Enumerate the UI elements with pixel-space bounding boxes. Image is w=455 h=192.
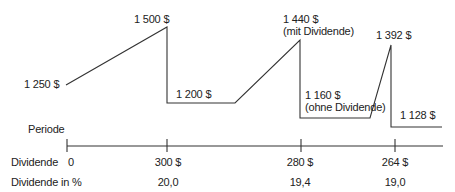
price-label-low3: 1 128 $	[400, 109, 435, 122]
price-label-low1: 1 200 $	[176, 88, 211, 101]
axis-label-period: Periode	[28, 123, 65, 136]
price-label-low2-note: (ohne Dividende)	[305, 101, 386, 114]
tick-dividend-3: 264 $	[382, 156, 409, 169]
tick-percent-2: 19,4	[290, 176, 311, 189]
tick-dividend-2: 280 $	[287, 156, 314, 169]
price-label-peak2-note: (mit Dividende)	[283, 25, 354, 38]
tick-percent-3: 19,0	[385, 176, 406, 189]
tick-dividend-0: 0	[68, 156, 74, 169]
tick-dividend-1: 300 $	[155, 156, 182, 169]
tick-percent-1: 20,0	[158, 176, 179, 189]
price-label-start: 1 250 $	[24, 78, 59, 91]
row-label-dividend-percent: Dividende in %	[11, 176, 82, 189]
price-line	[66, 27, 442, 127]
row-label-dividend: Dividende	[11, 156, 58, 169]
price-label-peak3: 1 392 $	[376, 29, 411, 42]
price-label-peak1: 1 500 $	[134, 13, 169, 26]
